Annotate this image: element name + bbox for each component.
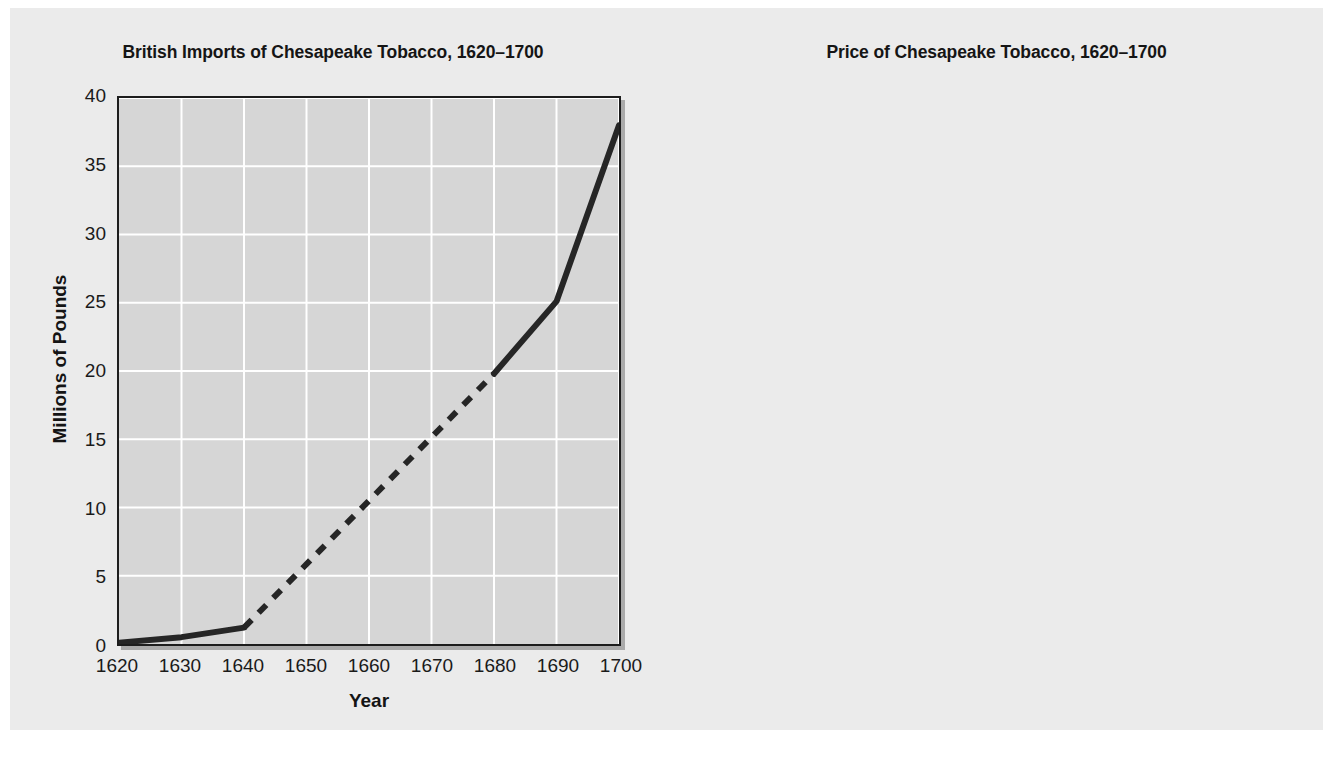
y-tick-label: 10 [85,498,106,520]
x-tick-label: 1670 [411,655,453,677]
y-tick-label: 30 [85,223,106,245]
chart-title-price: Price of Chesapeake Tobacco, 1620–1700 [660,42,1333,63]
chart-title-imports: British Imports of Chesapeake Tobacco, 1… [0,42,666,63]
y-tick-label: 25 [85,291,106,313]
x-axis-ticks-imports: 162016301640165016601670168016901700 [117,655,621,681]
x-tick-label: 1700 [600,655,642,677]
y-tick-label: 15 [85,429,106,451]
y-tick-label: 5 [95,566,106,588]
y-tick-label: 20 [85,360,106,382]
x-tick-label: 1620 [96,655,138,677]
x-axis-label-imports: Year [117,690,621,712]
y-axis-label-imports: Millions of Pounds [49,229,71,489]
y-tick-label: 35 [85,154,106,176]
chart-imports: British Imports of Chesapeake Tobacco, 1… [0,0,666,757]
charts-row: British Imports of Chesapeake Tobacco, 1… [0,0,1333,757]
x-tick-label: 1680 [474,655,516,677]
y-tick-label: 0 [95,635,106,657]
plot-area-imports [117,96,621,646]
x-tick-label: 1660 [348,655,390,677]
x-tick-label: 1690 [537,655,579,677]
figure-root: British Imports of Chesapeake Tobacco, 1… [0,0,1333,757]
y-tick-label: 40 [85,85,106,107]
chart-price: Price of Chesapeake Tobacco, 1620–1700 0… [660,0,1333,757]
x-tick-label: 1640 [222,655,264,677]
x-tick-label: 1650 [285,655,327,677]
x-tick-label: 1630 [159,655,201,677]
plot-canvas-imports [119,98,619,644]
